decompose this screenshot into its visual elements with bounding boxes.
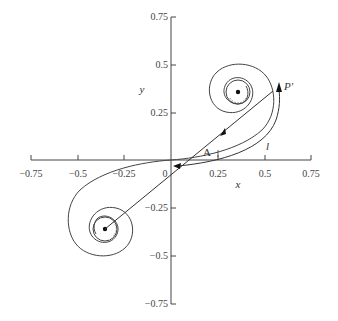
- angle-a-label: A: [203, 146, 211, 158]
- y-tick-label: −0.5: [150, 250, 168, 261]
- arc-l-label: l: [266, 140, 269, 152]
- origin-arrow-icon: [173, 163, 181, 169]
- y-axis-label: y: [139, 83, 145, 95]
- x-tick-label: 0: [163, 168, 168, 179]
- x-tick-label: −0.25: [112, 168, 135, 179]
- y-tick-label: 0.75: [151, 11, 169, 22]
- x-tick-label: 0.75: [302, 168, 320, 179]
- x-tick-label: −0.75: [19, 168, 42, 179]
- x-tick-label: 0.5: [259, 168, 272, 179]
- y-tick-label: −0.75: [145, 298, 168, 309]
- spiral-diagram: −0.75 −0.5 −0.25 0 0.25 0.5 0.75 0.75 0.…: [0, 0, 338, 321]
- x-tick-label: −0.5: [69, 168, 87, 179]
- x-axis-label: x: [235, 178, 241, 190]
- arc-arrow-icon: [276, 82, 282, 92]
- y-tick-label: 0.25: [151, 107, 169, 118]
- y-tick-label: 0.5: [156, 59, 169, 70]
- x-tick-label: 0.25: [209, 168, 227, 179]
- chord-arrow-icon: [220, 128, 226, 136]
- upper-center-point: [236, 90, 240, 94]
- point-p-label: P': [283, 80, 294, 92]
- y-tick-label: −0.25: [145, 202, 168, 213]
